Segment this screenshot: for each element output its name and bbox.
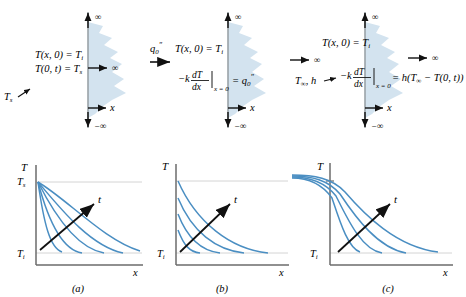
infinity-right-label-b: ∞ [314, 55, 320, 65]
condition-initial-b: T(x, 0) = Ti [175, 43, 223, 56]
y-tick-ti-c: Ti [310, 248, 318, 261]
evaluation-subscript-c: x = 0 [375, 82, 391, 90]
heat-flux-label-b: q0″ [150, 41, 163, 56]
y-axis-label-b: T [162, 160, 169, 172]
graph-panel-b: T Ti x t (b) [157, 160, 289, 295]
curve-t5-a [38, 182, 140, 251]
infinity-right-label-c: ∞ [432, 53, 438, 63]
panel-caption-c: (c) [382, 283, 394, 295]
infinity-bottom-label-a: −∞ [94, 121, 107, 131]
semi-infinite-solid-region-b [228, 22, 266, 118]
x-axis-label-b: x [278, 267, 284, 278]
time-arrow-a [40, 204, 94, 250]
minus-k-term-b: −k [178, 73, 190, 84]
convection-boundary-condition-equation-c: −k dT dx x = 0 = h(T∞ − T(0, t)) [340, 67, 464, 90]
x-axis-label-a: x [109, 102, 115, 113]
convection-label-c: T∞, h [295, 75, 316, 88]
minus-k-term-c: −k [340, 70, 352, 81]
derivative-denominator-b: dx [192, 82, 202, 92]
figure-root: ∞ −∞ T(x, 0) = Ti T(0, t) = Ts ∞ Ts x ∞ … [0, 0, 466, 297]
schematic-panel-b: ∞ −∞ q0″ T(x, 0) = Ti ∞ −k dT dx x = 0 =… [150, 12, 320, 131]
panel-caption-a: (a) [72, 283, 85, 295]
infinity-top-label-a: ∞ [95, 12, 101, 22]
temperature-curves-a [38, 182, 140, 253]
curve-t4-c [292, 175, 438, 252]
x-axis-label-c: x [386, 102, 392, 113]
time-arrow-label-c: t [394, 193, 398, 205]
y-axis-label-a: T [21, 161, 28, 173]
y-tick-ts-a: Ts [17, 176, 26, 189]
y-axis-label-c: T [317, 160, 324, 172]
derivative-denominator-c: dx [354, 79, 364, 89]
y-tick-ti-b: Ti [157, 248, 165, 261]
surface-temp-label-a: Ts [4, 91, 13, 104]
time-arrow-label-a: t [98, 193, 102, 205]
y-tick-ti-a: Ti [17, 248, 25, 261]
time-arrow-label-b: t [234, 193, 238, 205]
semi-infinite-solid-region-a [88, 22, 126, 118]
infinity-top-label-c: ∞ [372, 12, 378, 22]
infinity-bottom-label-c: −∞ [371, 121, 384, 131]
semi-infinite-solid-region-c [365, 22, 403, 118]
x-axis-label-b: x [249, 102, 255, 113]
panel-caption-b: (b) [216, 283, 229, 295]
temperature-curves-c [292, 175, 438, 253]
convection-rhs-c: = h(T∞ − T(0, t)) [392, 72, 464, 85]
derivative-numerator-c: dT [354, 67, 365, 77]
condition-surface-a: T(0, t) = Ts [35, 63, 82, 76]
graph-panel-a: T Ts Ti x t (a) [17, 161, 143, 295]
graph-panel-c: T Ti x t (c) [292, 160, 453, 295]
infinity-right-label-a: ∞ [112, 63, 118, 73]
infinity-bottom-label-b: −∞ [234, 121, 247, 131]
condition-initial-c: T(x, 0) = Ti [322, 37, 370, 50]
schematic-panel-c: ∞ −∞ T(x, 0) = Ti ∞ T∞, h −k dT dx x = 0… [295, 12, 464, 131]
condition-initial-a: T(x, 0) = Ti [35, 49, 83, 62]
heat-transfer-figure: ∞ −∞ T(x, 0) = Ti T(0, t) = Ts ∞ Ts x ∞ … [0, 0, 466, 297]
time-arrow-b [180, 204, 230, 252]
surface-temp-pointer-a [18, 89, 30, 97]
infinity-top-label-b: ∞ [235, 12, 241, 22]
evaluation-subscript-b: x = 0 [213, 85, 229, 93]
x-axis-label-a: x [132, 267, 138, 278]
x-axis-label-c: x [442, 267, 448, 278]
schematic-panel-a: ∞ −∞ T(x, 0) = Ti T(0, t) = Ts ∞ Ts x [4, 12, 126, 131]
convection-pointer-c [324, 78, 336, 81]
derivative-numerator-b: dT [192, 70, 203, 80]
